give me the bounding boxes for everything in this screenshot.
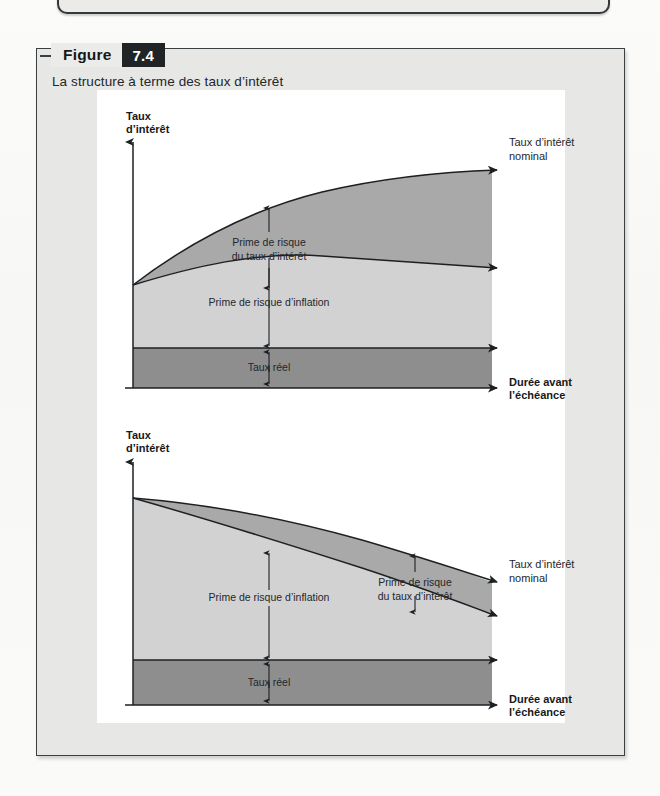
figure-tab: Figure 7.4 xyxy=(51,43,165,67)
x-axis-label-line1: Durée avant xyxy=(509,693,572,705)
chart-downward-yield-curve: Taux d’intérêt Prime de risque du taux d… xyxy=(97,420,565,720)
real-rate-label: Taux réel xyxy=(248,676,291,688)
x-axis-label-line2: l’échéance xyxy=(509,706,565,718)
rate-risk-premium-label-line2: du taux d’intérêt xyxy=(232,250,307,262)
figure-panel: Taux d’intérêt Prime de risque du taux d… xyxy=(97,90,565,723)
inflation-risk-premium-label: Prime de risque d’inflation xyxy=(209,591,330,603)
y-axis-label-line2: d’intérêt xyxy=(126,442,170,454)
figure-number: 7.4 xyxy=(122,43,165,67)
rate-risk-premium-label-line1: Prime de risque xyxy=(232,236,306,248)
y-axis-label-line2: d’intérêt xyxy=(126,123,170,135)
nominal-rate-label-line2: nominal xyxy=(509,572,548,584)
y-axis-label-line1: Taux xyxy=(126,429,152,441)
preceding-content-box xyxy=(57,0,610,14)
rate-risk-premium-label-line1: Prime de risque xyxy=(378,576,452,588)
real-rate-label: Taux réel xyxy=(248,361,291,373)
figure-caption: La structure à terme des taux d’intérêt xyxy=(52,74,283,89)
nominal-rate-label-line2: nominal xyxy=(509,150,548,162)
band-real-rate xyxy=(133,348,492,388)
x-axis-label-line2: l’échéance xyxy=(509,389,565,401)
nominal-rate-label-line1: Taux d’intérêt xyxy=(509,136,574,148)
figure-label: Figure xyxy=(51,43,122,67)
chart-upward-yield-curve: Taux d’intérêt Prime de risque du taux d… xyxy=(97,90,565,420)
nominal-rate-label-line1: Taux d’intérêt xyxy=(509,558,574,570)
y-axis-label-line1: Taux xyxy=(126,110,152,122)
inflation-risk-premium-label: Prime de risque d’inflation xyxy=(209,296,330,308)
band-real-rate xyxy=(133,660,492,705)
x-axis-label-line1: Durée avant xyxy=(509,376,572,388)
rate-risk-premium-label-line2: du taux d’intérêt xyxy=(378,590,453,602)
